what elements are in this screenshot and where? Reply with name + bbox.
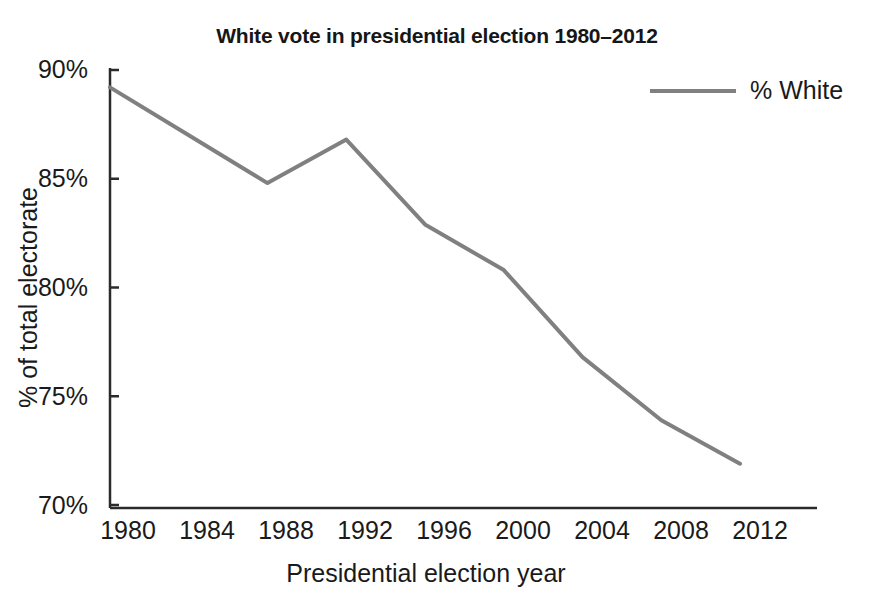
chart-container: White vote in presidential election 1980… bbox=[0, 0, 874, 611]
plot-area bbox=[0, 0, 874, 611]
data-line-white bbox=[110, 87, 740, 463]
axis-spines bbox=[110, 68, 817, 508]
y-axis-ticks bbox=[110, 70, 119, 505]
